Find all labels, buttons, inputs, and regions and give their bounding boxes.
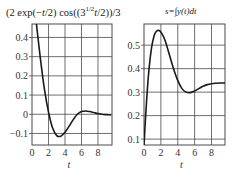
x-tick-label: 8 xyxy=(95,147,100,158)
right-plot-title: s=∫y(t)dt xyxy=(165,6,197,16)
x-tick-label: 6 xyxy=(192,147,197,158)
data-curve xyxy=(32,0,111,137)
plot-frame xyxy=(144,24,225,145)
y-tick-label: 0.5 xyxy=(128,40,141,51)
x-tick-label: 0 xyxy=(30,147,35,158)
y-tick-label: 0.2 xyxy=(128,110,141,121)
x-tick-label: 0 xyxy=(142,147,147,158)
x-axis-label: t xyxy=(180,159,183,170)
data-curve xyxy=(144,30,225,145)
chart-canvas: 02468−0.100.10.20.30.4t 024680.10.20.30.… xyxy=(0,0,232,180)
y-tick-label: 0.4 xyxy=(128,63,141,74)
x-tick-label: 6 xyxy=(79,147,84,158)
title-text: (2 exp(− xyxy=(6,7,42,18)
x-tick-label: 4 xyxy=(62,147,67,158)
y-tick-label: 0.2 xyxy=(16,70,29,81)
y-tick-label: 0.3 xyxy=(16,51,29,62)
title-text: /2) cos((3 xyxy=(45,7,86,18)
y-tick-label: 0.3 xyxy=(128,87,141,98)
x-tick-label: 8 xyxy=(209,147,214,158)
x-axis-label: t xyxy=(68,159,71,170)
y-tick-label: −0.1 xyxy=(10,128,28,139)
y-tick-label: 0.1 xyxy=(16,90,29,101)
x-tick-label: 2 xyxy=(158,147,163,158)
title-text: /2))/3 xyxy=(97,7,120,18)
left-plot-damped-cosine: 02468−0.100.10.20.30.4t xyxy=(10,0,112,170)
y-tick-label: 0.1 xyxy=(128,134,141,145)
y-tick-label: 0 xyxy=(23,109,28,120)
left-plot-title: (2 exp(−t/2) cos((31/2t/2))/3 xyxy=(6,5,121,18)
y-tick-label: 0.4 xyxy=(16,32,29,43)
title-text: s=∫y(t)dt xyxy=(165,6,197,16)
right-plot-integral: 024680.10.20.30.40.5t xyxy=(128,24,226,170)
x-tick-label: 2 xyxy=(46,147,51,158)
x-tick-label: 4 xyxy=(175,147,180,158)
